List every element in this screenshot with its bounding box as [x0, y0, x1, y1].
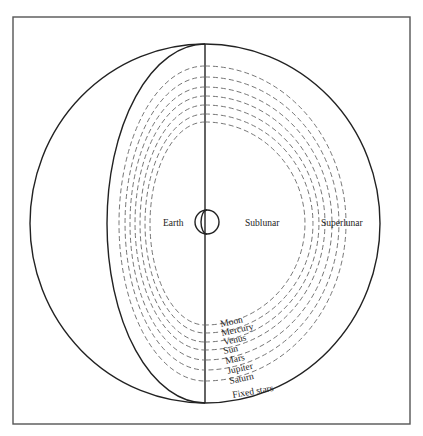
- planetary-spheres-left: [119, 66, 205, 381]
- fixed-stars-label: Fixed stars: [232, 383, 275, 400]
- sphere-labels: Moon Mercury Venus Sun Mars Jupiter Satu…: [219, 314, 255, 386]
- earth-globe: [195, 210, 219, 234]
- earth-label: Earth: [163, 218, 184, 228]
- sphere-front-edge: [107, 44, 205, 403]
- cosmos-diagram: Earth Sublunar Superlunar Moon Mercury V…: [0, 0, 423, 436]
- superlunar-label: Superlunar: [321, 218, 364, 228]
- sublunar-label: Sublunar: [245, 218, 280, 228]
